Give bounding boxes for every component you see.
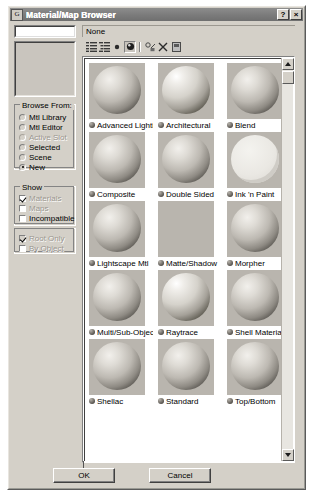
material-type-icon	[158, 260, 164, 266]
material-thumbnail[interactable]	[227, 63, 281, 119]
material-label-row: Lightscape Mtl	[89, 258, 153, 268]
material-map-browser-window: G Material/Map Browser ? × Browse From: …	[7, 5, 306, 490]
clear-icon[interactable]	[170, 41, 182, 53]
material-item[interactable]: Morpher	[227, 201, 281, 268]
radio-label: Selected	[29, 143, 60, 152]
scrollbar-thumb[interactable]	[282, 71, 294, 84]
sphere-preview-icon	[231, 273, 279, 321]
material-thumbnail[interactable]	[89, 132, 145, 188]
material-label: Ink 'n Paint	[235, 190, 274, 199]
material-thumbnail[interactable]	[227, 270, 281, 326]
material-thumbnail[interactable]	[158, 132, 214, 188]
material-label: Architectural	[166, 121, 210, 130]
material-thumbnail[interactable]	[227, 132, 281, 188]
material-type-icon	[89, 260, 95, 266]
checkbox-maps[interactable]: Maps	[19, 203, 49, 213]
material-item[interactable]: Shell Material	[227, 270, 281, 337]
material-list-viewport: Advanced LightingArchitecturalBlendCompo…	[84, 58, 281, 461]
material-thumbnail[interactable]	[227, 201, 281, 257]
material-item[interactable]: Multi/Sub-Object	[89, 270, 153, 337]
arrow-down-icon	[285, 453, 291, 457]
material-item[interactable]: Ink 'n Paint	[227, 132, 281, 199]
material-thumbnail[interactable]	[158, 201, 214, 257]
checkbox-by-object[interactable]: By Object	[19, 243, 64, 253]
browse-from-legend: Browse From:	[20, 101, 74, 110]
checkbox-root-only[interactable]: Root Only	[19, 233, 65, 243]
scroll-down-button[interactable]	[282, 449, 294, 461]
help-button[interactable]: ?	[277, 9, 289, 20]
sphere-preview-icon	[93, 204, 141, 252]
material-name-input[interactable]	[14, 25, 76, 38]
checkbox-materials[interactable]: Materials	[19, 193, 61, 203]
radio-label: Scene	[29, 153, 52, 162]
sphere-preview-icon	[231, 204, 279, 252]
material-label: Top/Bottom	[235, 397, 275, 406]
browse-from-group: Browse From: Mtl Library Mtl Editor Acti…	[14, 104, 76, 170]
cancel-button[interactable]: Cancel	[149, 468, 211, 483]
material-type-icon	[158, 329, 164, 335]
material-type-icon	[227, 398, 233, 404]
view-list-details-icon[interactable]	[98, 41, 110, 53]
sphere-preview-icon	[231, 66, 279, 114]
material-label-row: Advanced Lighting	[89, 120, 153, 130]
material-label: Standard	[166, 397, 198, 406]
radio-label: New	[29, 163, 45, 172]
sphere-preview-icon	[162, 135, 210, 183]
material-item[interactable]: Standard	[158, 339, 222, 406]
material-thumbnail[interactable]	[89, 201, 145, 257]
view-list-icon[interactable]	[85, 41, 97, 53]
material-item[interactable]: Composite	[89, 132, 153, 199]
checkbox-incompatible[interactable]: Incompatible	[19, 213, 74, 223]
sphere-preview-icon	[93, 66, 141, 114]
material-item[interactable]: Lightscape Mtl	[89, 201, 153, 268]
radio-mtl-library[interactable]: Mtl Library	[19, 112, 66, 122]
material-preview-pane[interactable]	[14, 41, 76, 97]
view-small-icons-icon[interactable]	[111, 41, 123, 53]
material-thumbnail[interactable]	[89, 63, 145, 119]
show-group: Show Materials Maps Incompatible	[14, 186, 76, 226]
checkbox-label: Root Only	[29, 234, 65, 243]
close-button[interactable]: ×	[290, 9, 302, 20]
material-label-row: Multi/Sub-Object	[89, 327, 153, 337]
radio-new[interactable]: New	[19, 162, 45, 172]
material-item[interactable]: Top/Bottom	[227, 339, 281, 406]
radio-indicator	[19, 164, 26, 171]
current-selection-label: None	[86, 27, 105, 36]
material-item[interactable]: Advanced Lighting	[89, 63, 153, 130]
delete-icon[interactable]	[157, 41, 169, 53]
material-item[interactable]: Double Sided	[158, 132, 222, 199]
material-label: Shellac	[97, 397, 123, 406]
material-item[interactable]: Blend	[227, 63, 281, 130]
view-large-icons-icon[interactable]	[124, 41, 136, 53]
material-thumbnail[interactable]	[89, 339, 145, 395]
material-thumbnail[interactable]	[158, 63, 214, 119]
material-thumbnail[interactable]	[158, 270, 214, 326]
scroll-up-button[interactable]	[282, 58, 294, 70]
material-type-icon	[89, 329, 95, 335]
system-menu-icon[interactable]: G	[11, 9, 23, 21]
material-item[interactable]: Raytrace	[158, 270, 222, 337]
material-list-pane[interactable]: Advanced LightingArchitecturalBlendCompo…	[82, 56, 295, 463]
material-thumbnail[interactable]	[89, 270, 145, 326]
material-item[interactable]: Shellac	[89, 339, 153, 406]
scope-group: Root Only By Object	[14, 228, 76, 254]
material-type-icon	[227, 122, 233, 128]
material-item[interactable]: Matte/Shadow	[158, 201, 222, 268]
material-thumbnail[interactable]	[158, 339, 214, 395]
material-label-row: Standard	[158, 396, 222, 406]
radio-selected[interactable]: Selected	[19, 142, 60, 152]
material-label-row: Shellac	[89, 396, 153, 406]
vertical-scrollbar[interactable]	[281, 58, 293, 461]
material-thumbnail[interactable]	[227, 339, 281, 395]
material-label-row: Blend	[227, 120, 281, 130]
title-bar[interactable]: G Material/Map Browser ? ×	[10, 8, 303, 21]
radio-scene[interactable]: Scene	[19, 152, 52, 162]
sphere-preview-icon	[231, 135, 279, 183]
checkbox-indicator	[19, 215, 26, 222]
radio-indicator	[19, 114, 26, 121]
material-label: Morpher	[235, 259, 265, 268]
material-item[interactable]: Architectural	[158, 63, 222, 130]
update-scene-icon[interactable]	[144, 41, 156, 53]
radio-mtl-editor[interactable]: Mtl Editor	[19, 122, 63, 132]
ok-button[interactable]: OK	[53, 468, 115, 483]
